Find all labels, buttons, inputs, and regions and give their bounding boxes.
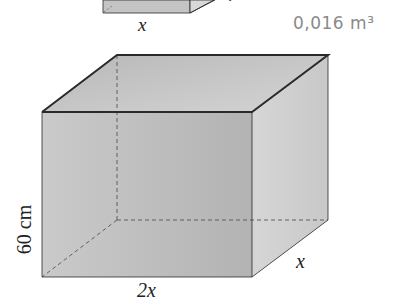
height-label: 60 cm [13,200,36,260]
large-box [42,55,328,277]
small-box-width-label: x [138,14,146,36]
large-box-front-face [42,112,252,277]
small-box-front-face [103,0,190,13]
box-diagram [0,0,401,306]
width-label: 2x [137,279,156,302]
volume-annotation: 0,016 m³ [293,13,374,33]
depth-label: x [296,250,305,273]
diagram-canvas: x 40 0,016 m³ 60 cm 2x x [0,0,401,306]
small-box [103,0,215,13]
